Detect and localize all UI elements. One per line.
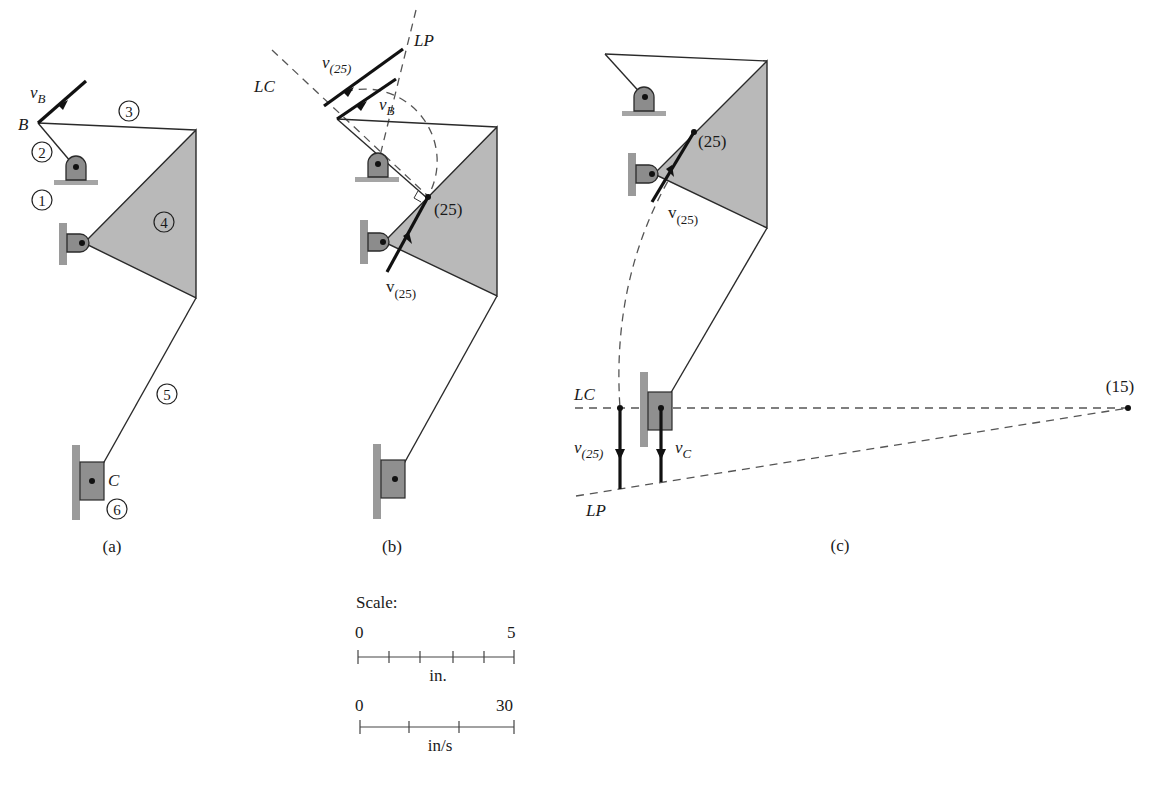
- arrowhead-icon: [656, 449, 666, 460]
- caption-c: (c): [831, 536, 850, 555]
- link-5: [94, 298, 196, 480]
- vector-v25-top: [324, 49, 403, 106]
- length-scale-max: 5: [507, 623, 516, 642]
- label-v25-top: v(25): [322, 53, 351, 76]
- label-point-15: (15): [1106, 377, 1134, 396]
- point-c: [89, 478, 95, 484]
- scale-title: Scale:: [356, 593, 398, 612]
- label-v25-bottom: v(25): [386, 277, 416, 301]
- length-scale-min: 0: [355, 623, 364, 642]
- point-c: [392, 476, 398, 482]
- wall: [628, 153, 636, 196]
- label-lc: LC: [253, 77, 275, 96]
- velocity-analysis-diagram: vB B C 1 2 3 4 5 6 (a): [0, 0, 1164, 791]
- svg-text:5: 5: [163, 387, 171, 403]
- point-15: [1125, 405, 1131, 411]
- pivot-point: [649, 171, 655, 177]
- link-3: [605, 54, 767, 61]
- pivot-point: [642, 94, 648, 100]
- caption-a: (a): [103, 537, 122, 556]
- panel-b: LC LP v(25) vB (25) v(25) (b): [253, 10, 497, 556]
- pivot-point: [79, 240, 85, 246]
- link-4-triangle: [84, 130, 196, 298]
- pivot-point: [380, 239, 386, 245]
- scale-legend: Scale: 0 5 in. 0 30 in/s: [355, 593, 516, 755]
- velocity-scale-min: 0: [355, 696, 364, 715]
- label-lp: LP: [585, 501, 606, 520]
- length-scale-bar: [358, 650, 514, 664]
- link-3: [337, 119, 497, 127]
- slider-wall: [373, 444, 381, 519]
- pivot-point: [73, 164, 79, 170]
- velocity-scale-max: 30: [496, 696, 513, 715]
- label-vc: vC: [675, 438, 692, 461]
- ground-hatch: [54, 180, 98, 185]
- label-lc: LC: [573, 385, 595, 404]
- label-point-25: (25): [434, 200, 462, 219]
- svg-text:3: 3: [125, 104, 133, 120]
- velocity-scale-unit: in/s: [428, 736, 453, 755]
- slider-wall: [640, 372, 648, 447]
- ground-hatch: [355, 177, 399, 182]
- link-number-2: 2: [32, 142, 52, 162]
- length-scale-unit: in.: [429, 666, 446, 685]
- link-number-1: 1: [32, 190, 52, 210]
- caption-b: (b): [382, 537, 402, 556]
- panel-c: (25) v(25) LC LP v(25) vC (15) (c): [573, 54, 1134, 555]
- link-5: [662, 228, 767, 408]
- svg-text:6: 6: [113, 502, 121, 518]
- label-vb: vB: [379, 95, 395, 118]
- wall-pivot: [67, 234, 89, 252]
- label-lp: LP: [413, 31, 434, 50]
- label-vb: vB: [30, 83, 46, 106]
- link-number-3: 3: [119, 101, 139, 121]
- label-v25-low: v(25): [574, 438, 603, 461]
- svg-text:4: 4: [160, 215, 168, 231]
- panel-a: vB B C 1 2 3 4 5 6 (a): [18, 81, 196, 556]
- label-c: C: [108, 471, 120, 490]
- slider-wall: [72, 445, 80, 520]
- pivot-point: [375, 161, 381, 167]
- link-number-5: 5: [157, 384, 177, 404]
- label-b: B: [18, 115, 29, 134]
- arrowhead-icon: [615, 449, 625, 460]
- ground-hatch: [622, 111, 666, 116]
- wall: [360, 220, 368, 264]
- velocity-scale-bar: [360, 720, 514, 734]
- svg-text:1: 1: [38, 193, 46, 209]
- label-v25: v(25): [668, 203, 698, 227]
- svg-text:2: 2: [38, 145, 46, 161]
- label-point-25: (25): [698, 132, 726, 151]
- link-5: [396, 296, 497, 478]
- link-3: [38, 123, 196, 130]
- link-number-6: 6: [107, 499, 127, 519]
- wall: [59, 223, 67, 265]
